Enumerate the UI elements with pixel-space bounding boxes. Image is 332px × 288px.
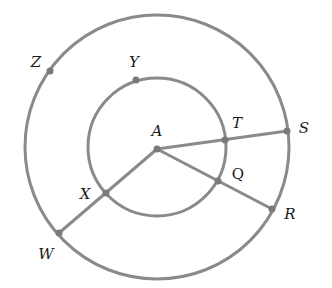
point-w bbox=[56, 230, 63, 237]
point-t bbox=[222, 137, 229, 144]
label-r: R bbox=[284, 207, 295, 222]
label-a: A bbox=[152, 124, 163, 139]
label-s: S bbox=[299, 121, 309, 136]
point-x bbox=[103, 190, 110, 197]
point-z bbox=[47, 68, 54, 75]
point-a bbox=[154, 146, 161, 153]
label-z: Z bbox=[31, 55, 41, 70]
label-x: X bbox=[80, 187, 91, 202]
label-t: T bbox=[232, 116, 242, 131]
point-s bbox=[284, 128, 291, 135]
point-r bbox=[269, 206, 276, 213]
label-q: Q bbox=[232, 167, 244, 182]
point-q bbox=[215, 178, 222, 185]
label-w: W bbox=[38, 247, 53, 262]
point-y bbox=[133, 77, 140, 84]
label-y: Y bbox=[129, 55, 139, 70]
segment-a-r bbox=[157, 149, 272, 209]
